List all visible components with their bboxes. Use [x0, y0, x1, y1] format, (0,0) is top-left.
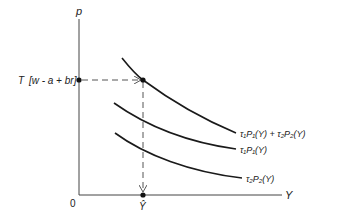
- curve-p2-label: τ₂P₂(Y): [246, 174, 274, 184]
- intersection-point: [140, 77, 145, 82]
- x-axis-label: Y: [285, 189, 293, 201]
- curve-sum: [122, 58, 236, 133]
- curve-p1-label: τ₁P₁(Y): [240, 145, 267, 155]
- x-axis-point: [140, 192, 145, 197]
- x-marker-label: Ŷ: [139, 200, 147, 212]
- y-marker-label: T [w - a + br]: [18, 75, 77, 86]
- diagram-canvas: p Y 0 T [w - a + br] Ŷ τ₁P₁(Y) + τ₂P₂(Y)…: [0, 0, 337, 223]
- curve-p2: [115, 133, 242, 178]
- curve-p1: [114, 103, 236, 149]
- curve-sum-label: τ₁P₁(Y) + τ₂P₂(Y): [240, 129, 306, 139]
- y-axis-point: [76, 77, 81, 82]
- y-axis-label: p: [75, 5, 82, 17]
- origin-label: 0: [70, 198, 76, 209]
